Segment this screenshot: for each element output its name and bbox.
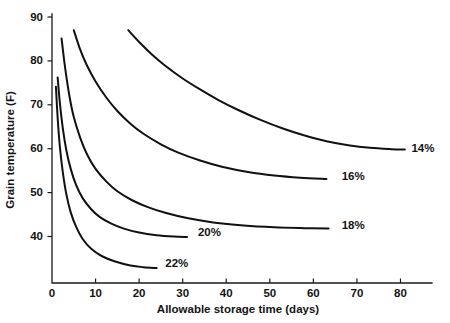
series-label: 20% (198, 226, 221, 238)
y-tick-label: 90 (30, 11, 43, 23)
x-tick-label: 70 (351, 287, 364, 299)
series-label: 14% (411, 142, 434, 154)
series-curve (62, 39, 329, 229)
x-tick-label: 60 (307, 287, 320, 299)
y-tick-label: 50 (30, 186, 43, 198)
y-tick-label: 60 (30, 142, 43, 154)
series-curve (56, 87, 157, 268)
series-label: 18% (342, 219, 365, 231)
chart-plot-area: 40506070809001020304050607080 14%16%18%2… (0, 0, 450, 323)
x-tick-label: 80 (394, 287, 407, 299)
x-tick-label: 50 (263, 287, 276, 299)
y-axis-title: Grain temperature (F) (4, 91, 16, 209)
y-tick-label: 80 (30, 54, 43, 66)
series-curve (74, 30, 327, 179)
x-tick-label: 20 (133, 287, 146, 299)
y-tick-label: 40 (30, 230, 43, 242)
x-axis-title: Allowable storage time (days) (157, 303, 319, 315)
x-tick-label: 40 (220, 287, 233, 299)
y-tick-label: 70 (30, 98, 43, 110)
x-tick-label: 0 (49, 287, 55, 299)
series-label: 22% (165, 257, 188, 269)
chart-container: 40506070809001020304050607080 14%16%18%2… (0, 0, 450, 323)
series-labels-group: 14%16%18%20%22% (165, 142, 434, 269)
series-label: 16% (342, 170, 365, 182)
x-tick-label: 10 (89, 287, 102, 299)
x-tick-label: 30 (176, 287, 189, 299)
curves-group (56, 30, 405, 268)
series-curve (128, 30, 405, 149)
